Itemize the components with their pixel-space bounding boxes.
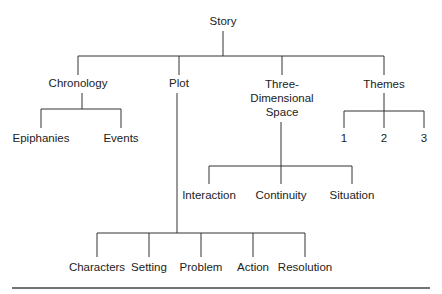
node-label-line: Space: [250, 105, 313, 119]
node-action: Action: [237, 260, 269, 274]
node-story: Story: [210, 14, 237, 28]
node-situation: Situation: [330, 188, 375, 202]
node-theme-2: 2: [381, 131, 387, 145]
node-plot: Plot: [169, 76, 189, 90]
node-chronology: Chronology: [49, 76, 108, 90]
node-themes: Themes: [363, 77, 405, 91]
node-three-dimensional-space: Three- Dimensional Space: [250, 77, 313, 119]
node-label-line: Three-: [250, 77, 313, 91]
node-characters: Characters: [69, 260, 125, 274]
node-events: Events: [103, 131, 138, 145]
node-problem: Problem: [180, 260, 223, 274]
node-interaction: Interaction: [182, 188, 236, 202]
node-setting: Setting: [131, 260, 167, 274]
node-resolution: Resolution: [278, 260, 332, 274]
node-continuity: Continuity: [255, 188, 306, 202]
node-epiphanies: Epiphanies: [13, 131, 70, 145]
node-label-line: Dimensional: [250, 91, 313, 105]
tree-connectors: [0, 0, 442, 294]
node-theme-1: 1: [341, 131, 347, 145]
node-theme-3: 3: [421, 131, 427, 145]
